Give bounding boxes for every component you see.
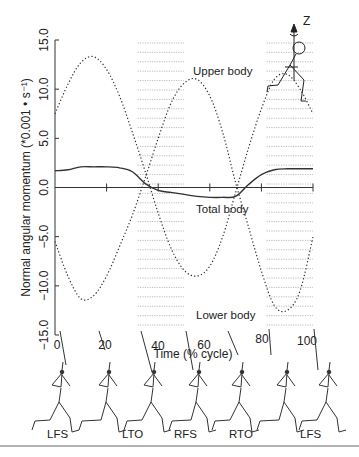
x-tick-label: 0 [54, 338, 61, 352]
y-tick-label: 15.0 [37, 28, 51, 52]
total-body-label: Total body [196, 203, 249, 215]
total-body-line [55, 167, 313, 198]
z-axis-figure-icon: Z [267, 14, 310, 101]
x-tick-label: 80 [255, 332, 269, 346]
stick-figures: Z [32, 14, 346, 432]
runner-figure-icon [212, 362, 259, 432]
gait-event-rfs: RFS [174, 428, 197, 440]
upper-body-label: Upper body [193, 65, 253, 77]
shaded-regions [138, 43, 313, 325]
y-tick-label: 10.0 [37, 77, 51, 101]
runner-figure-icon [299, 362, 346, 432]
x-tick-connector [60, 331, 66, 365]
y-axis-label: Normal angular momentum (*0.001 • s⁻¹) [19, 78, 33, 296]
y-tick-label: 0.0 [37, 179, 51, 196]
y-tick-label: 5.0 [37, 130, 51, 147]
gait-event-lfs: LFS [47, 428, 68, 440]
runner-figure-icon [257, 362, 304, 432]
x-axis-label: Time (% cycle) [154, 347, 233, 361]
angular-momentum-chart: 15.010.05.00.0−5.0−10.0−15.0Normal angul… [0, 0, 359, 457]
y-tick-label: −15.0 [37, 319, 51, 350]
x-tick-connector [269, 329, 271, 355]
runner-figure-icon [169, 362, 216, 432]
lower-body-label: Lower body [196, 309, 256, 321]
runner-figure-icon [124, 362, 171, 432]
y-tick-label: −10.0 [37, 270, 51, 301]
labels: Upper bodyTotal bodyLower bodyLFSLTORFSR… [47, 65, 321, 440]
runner-figure-icon [79, 362, 126, 432]
z-label: Z [303, 14, 310, 28]
axes: 15.010.05.00.0−5.0−10.0−15.0Normal angul… [19, 28, 318, 372]
y-tick-label: −5.0 [37, 225, 51, 249]
gait-event-rto: RTO [229, 428, 253, 440]
runner-figure-icon [32, 362, 79, 432]
